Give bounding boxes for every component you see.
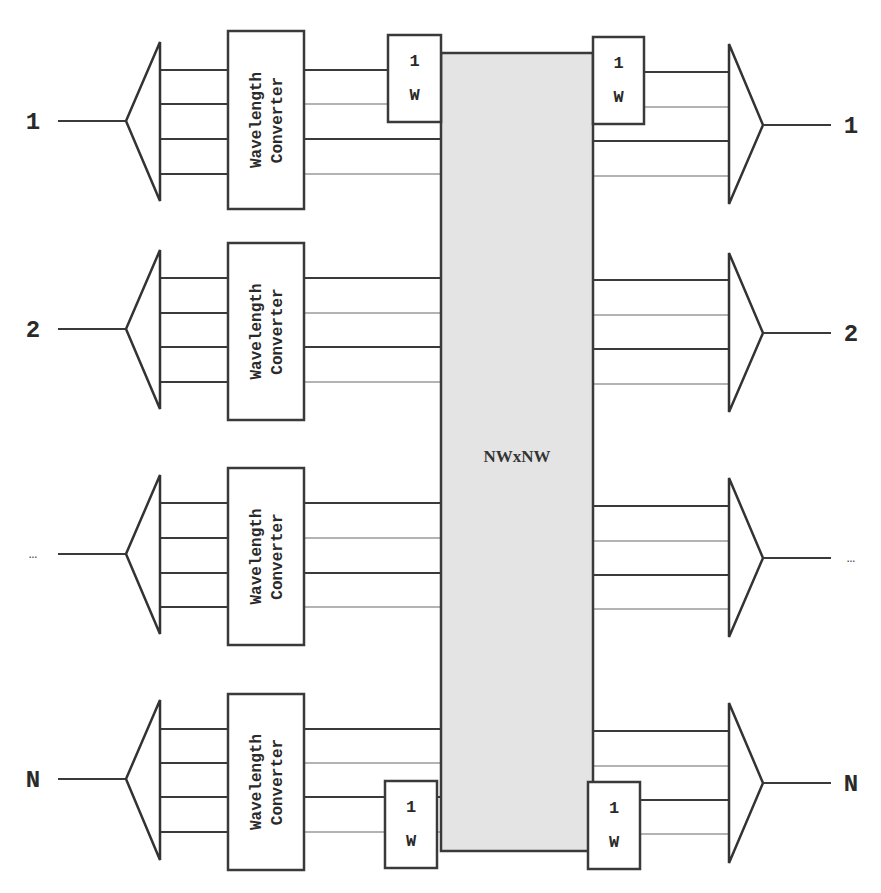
- multiplexer-icon: [729, 253, 763, 412]
- input-port-group: 2WavelengthConverter: [26, 243, 304, 420]
- output-port-group: 1: [729, 44, 858, 204]
- input-port-label: …: [29, 546, 37, 562]
- wavelength-index-start: 1: [406, 798, 416, 817]
- output-port-group: N: [729, 703, 858, 863]
- output-port-label: N: [844, 771, 858, 798]
- wavelength-index-start: 1: [409, 52, 419, 71]
- wavelength-converter-box: [228, 468, 304, 645]
- input-port-group: NWavelengthConverter: [26, 694, 304, 870]
- input-port-group: …WavelengthConverter: [29, 468, 304, 645]
- wavelength-index-end: W: [406, 832, 417, 851]
- wavelength-converter-box: [228, 694, 304, 870]
- converter-label-line2: Converter: [269, 77, 287, 163]
- wavelength-converter-box: [228, 243, 304, 420]
- wavelength-index-start: 1: [613, 54, 623, 73]
- output-port-label: 2: [844, 321, 858, 348]
- wavelength-switch-diagram: NWxNW 1WavelengthConverter2WavelengthCon…: [0, 0, 881, 893]
- wl-box-top-right: 1W: [593, 37, 644, 124]
- converter-label-line1: Wavelength: [248, 283, 266, 379]
- input-port-label: N: [26, 767, 40, 794]
- input-side: 1WavelengthConverter2WavelengthConverter…: [26, 31, 304, 870]
- multiplexer-icon: [729, 44, 763, 204]
- output-port-label: 1: [844, 113, 858, 140]
- output-port-group: …: [729, 478, 855, 637]
- input-port-label: 2: [26, 317, 40, 344]
- converter-label-line1: Wavelength: [248, 72, 266, 168]
- multiplexer-icon: [729, 478, 763, 637]
- wl-box-top-left: 1W: [388, 35, 441, 122]
- demultiplexer-icon: [126, 700, 160, 860]
- wavelength-index-start: 1: [609, 799, 619, 818]
- converter-label-line1: Wavelength: [248, 734, 266, 830]
- wavelength-converter-box: [228, 31, 304, 209]
- output-side: 12…N: [729, 44, 858, 863]
- output-port-label: …: [847, 550, 855, 566]
- input-port-label: 1: [26, 109, 40, 136]
- input-port-group: 1WavelengthConverter: [26, 31, 304, 209]
- wl-box-bottom-right: 1W: [588, 782, 640, 869]
- multiplexer-icon: [729, 703, 763, 863]
- wavelength-index-end: W: [409, 86, 420, 105]
- output-port-group: 2: [729, 253, 858, 412]
- wavelength-index-end: W: [609, 833, 620, 852]
- wavelength-index-end: W: [613, 88, 624, 107]
- converter-label-line2: Converter: [269, 288, 287, 374]
- demultiplexer-icon: [126, 250, 160, 409]
- wl-box-bottom-left: 1W: [385, 781, 437, 868]
- converter-label-line2: Converter: [269, 739, 287, 825]
- demultiplexer-icon: [126, 42, 160, 201]
- converter-label-line1: Wavelength: [248, 508, 266, 604]
- demultiplexer-icon: [126, 475, 160, 634]
- switch-core-label: NWxNW: [483, 447, 550, 466]
- converter-label-line2: Converter: [269, 513, 287, 599]
